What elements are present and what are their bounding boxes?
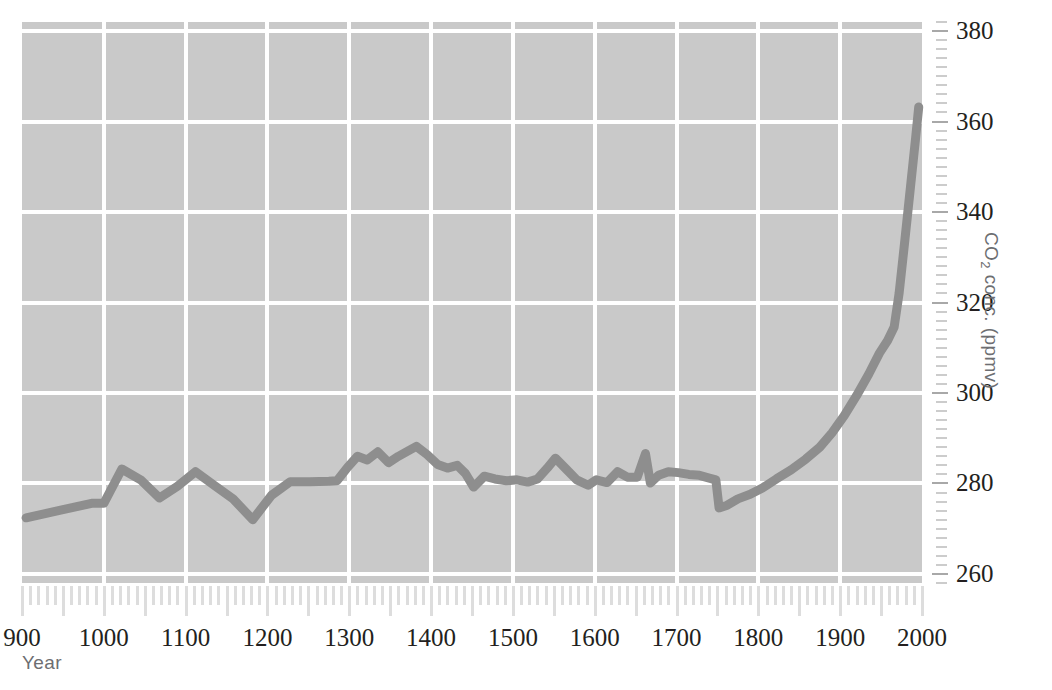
x-tick-minor	[201, 586, 204, 605]
y-tick-minor	[936, 102, 947, 104]
x-tick-label: 1700	[652, 624, 702, 652]
x-tick-minor	[250, 586, 253, 605]
x-tick-major	[348, 586, 351, 616]
y-tick-minor	[936, 501, 947, 503]
x-tick-label: 1300	[324, 624, 374, 652]
x-tick-minor	[356, 586, 359, 605]
x-tick-major	[389, 586, 392, 616]
y-tick-minor	[936, 184, 947, 186]
y-tick-label: 360	[956, 109, 994, 134]
x-tick-minor	[168, 586, 171, 605]
x-tick-minor	[659, 586, 662, 605]
x-tick-minor	[561, 586, 564, 605]
y-tick-minor	[936, 519, 947, 521]
x-tick-minor	[242, 586, 245, 605]
co2-concentration-chart: 260280300320340360380 CO2 conc. (ppmv) 9…	[0, 0, 1052, 690]
x-tick-major	[471, 586, 474, 616]
x-tick-minor	[545, 586, 548, 605]
x-tick-minor	[774, 586, 777, 605]
x-tick-minor	[831, 586, 834, 605]
x-tick-minor	[414, 586, 417, 605]
y-tick-minor	[936, 464, 947, 466]
y-tick-minor	[936, 292, 947, 294]
y-tick-minor	[936, 229, 947, 231]
x-tick-minor	[46, 586, 49, 605]
x-tick-minor	[602, 586, 605, 605]
x-tick-minor	[54, 586, 57, 605]
x-tick-minor	[463, 586, 466, 605]
x-tick-label: 900	[3, 624, 41, 652]
y-axis-title-pre: CO	[981, 232, 1002, 261]
x-tick-minor	[340, 586, 343, 605]
x-tick-minor	[782, 586, 785, 605]
y-tick-minor	[936, 21, 947, 23]
x-tick-minor	[815, 586, 818, 605]
y-tick-minor	[936, 139, 947, 141]
x-tick-minor	[446, 586, 449, 605]
x-tick-minor	[749, 586, 752, 605]
x-tick-minor	[78, 586, 81, 605]
x-tick-minor	[504, 586, 507, 605]
y-tick-label: 280	[956, 470, 994, 495]
y-tick-minor	[936, 564, 947, 566]
x-tick-minor	[569, 586, 572, 605]
y-tick-major	[932, 30, 948, 32]
x-tick-major	[880, 586, 883, 616]
x-tick-minor	[160, 586, 163, 605]
x-tick-minor	[258, 586, 261, 605]
y-tick-major	[932, 121, 948, 123]
x-tick-major	[21, 586, 24, 616]
y-tick-minor	[936, 265, 947, 267]
x-tick-minor	[618, 586, 621, 605]
x-tick-minor	[37, 586, 40, 605]
x-tick-minor	[291, 586, 294, 605]
x-tick-minor	[896, 586, 899, 605]
x-tick-label: 1800	[733, 624, 783, 652]
x-axis: 9001000110012001300140015001600170018001…	[22, 586, 922, 626]
series-polyline	[26, 107, 919, 520]
x-tick-label: 1400	[406, 624, 456, 652]
y-tick-minor	[936, 93, 947, 95]
x-tick-minor	[119, 586, 122, 605]
x-tick-minor	[29, 586, 32, 605]
y-tick-major	[932, 302, 948, 304]
y-tick-minor	[936, 347, 947, 349]
x-tick-minor	[667, 586, 670, 605]
y-tick-minor	[936, 537, 947, 539]
x-tick-minor	[536, 586, 539, 605]
x-tick-label: 2000	[897, 624, 947, 652]
y-tick-minor	[936, 166, 947, 168]
x-tick-major	[594, 586, 597, 616]
x-tick-minor	[528, 586, 531, 605]
y-tick-minor	[936, 437, 947, 439]
x-tick-major	[103, 586, 106, 616]
y-tick-major	[932, 482, 948, 484]
y-tick-minor	[936, 193, 947, 195]
x-tick-minor	[496, 586, 499, 605]
y-tick-minor	[936, 75, 947, 77]
x-tick-minor	[692, 586, 695, 605]
x-tick-minor	[332, 586, 335, 605]
y-tick-label: 260	[956, 561, 994, 586]
x-tick-minor	[626, 586, 629, 605]
x-tick-major	[635, 586, 638, 616]
x-tick-label: 1200	[242, 624, 292, 652]
x-tick-minor	[487, 586, 490, 605]
x-tick-minor	[700, 586, 703, 605]
x-tick-minor	[864, 586, 867, 605]
x-tick-minor	[643, 586, 646, 605]
x-tick-minor	[217, 586, 220, 605]
x-tick-minor	[422, 586, 425, 605]
y-tick-minor	[936, 157, 947, 159]
y-axis-title-post: conc. (ppmv)	[981, 269, 1002, 389]
x-tick-minor	[520, 586, 523, 605]
y-tick-major	[932, 392, 948, 394]
x-tick-label: 1000	[79, 624, 129, 652]
x-tick-minor	[234, 586, 237, 605]
y-axis-title-subscript: 2	[978, 261, 993, 269]
x-tick-minor	[913, 586, 916, 605]
y-tick-minor	[936, 84, 947, 86]
x-tick-minor	[316, 586, 319, 605]
x-tick-label: 1100	[161, 624, 210, 652]
y-tick-minor	[936, 555, 947, 557]
